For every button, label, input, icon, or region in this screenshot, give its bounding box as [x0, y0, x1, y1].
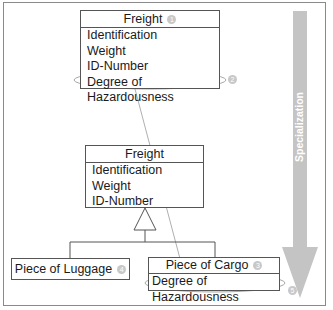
badge-3: 3 [253, 261, 262, 270]
class-header: Piece of Cargo3 [149, 258, 279, 274]
class-freight-top: Freight1 Identification Weight ID-Number… [80, 10, 220, 89]
class-name: Freight [125, 147, 164, 161]
attribute: ID-Number [81, 59, 219, 75]
class-header: Freight1 [81, 11, 219, 28]
attribute: ID-Number [86, 194, 203, 210]
generalization-triangle [134, 208, 156, 230]
badge-5: 5 [288, 286, 297, 295]
attribute: Identification [86, 163, 203, 179]
attribute: Degree of Hazardousness [81, 75, 219, 106]
class-piece-of-luggage: Piece of Luggage4 [11, 258, 130, 280]
specialization-label: Specialization [290, 116, 308, 162]
class-name: Freight [124, 12, 163, 26]
badge-1: 1 [167, 15, 176, 24]
class-name: Piece of Cargo [166, 258, 249, 272]
attribute: Weight [81, 44, 219, 60]
badge-2: 2 [228, 75, 237, 84]
class-freight-base: Freight Identification Weight ID-Number [85, 145, 204, 208]
badge-4: 4 [117, 265, 126, 274]
attribute: Degree of Hazardousness [149, 274, 279, 305]
class-name: Piece of Luggage [15, 262, 112, 276]
class-piece-of-cargo: Piece of Cargo3 Degree of Hazardousness [148, 257, 280, 291]
attribute: Weight [86, 179, 203, 195]
class-header: Freight [86, 146, 203, 163]
attribute: Identification [81, 28, 219, 44]
